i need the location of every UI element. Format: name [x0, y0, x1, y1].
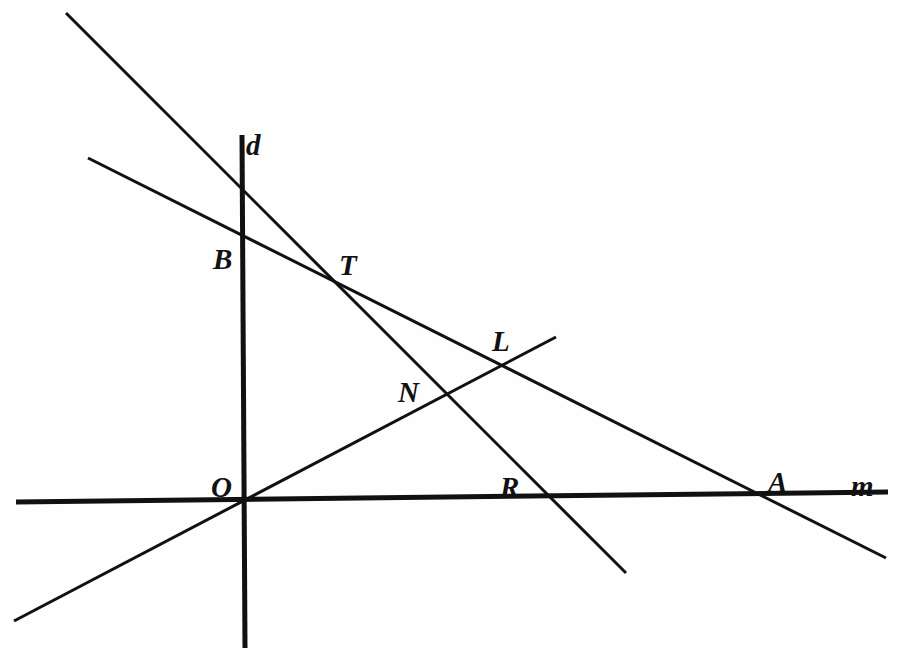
lines-group: [14, 13, 888, 648]
line-d-vertical: [242, 135, 245, 648]
label-T: T: [339, 251, 357, 280]
label-O: O: [211, 473, 232, 502]
line-steep-descending: [66, 13, 626, 573]
line-rising: [14, 337, 556, 621]
label-L: L: [492, 327, 510, 356]
label-N: N: [398, 378, 419, 407]
label-m: m: [851, 472, 874, 501]
label-A: A: [768, 468, 787, 497]
label-d: d: [246, 131, 261, 160]
label-B: B: [213, 245, 232, 274]
label-R: R: [500, 473, 519, 502]
figure-canvas: [0, 0, 899, 660]
geometry-figure: dBTLNORAm: [0, 0, 899, 660]
